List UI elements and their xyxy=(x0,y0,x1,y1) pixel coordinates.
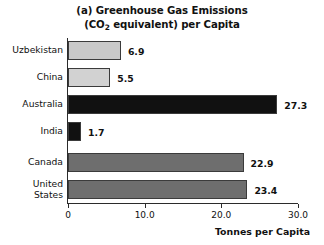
chart-title: (a) Greenhouse Gas Emissions (CO2 equiva… xyxy=(0,4,324,31)
greenhouse-gas-emissions-bar-chart: (a) Greenhouse Gas Emissions (CO2 equiva… xyxy=(0,0,324,245)
x-tick-label: 20.0 xyxy=(211,210,231,220)
bar-value-label: 5.5 xyxy=(117,72,133,83)
bar xyxy=(68,95,277,114)
x-tick-mark xyxy=(221,204,222,208)
bar-value-label: 23.4 xyxy=(254,184,277,195)
chart-title-co2-suffix: equivalent) per Capita xyxy=(110,19,240,30)
bar xyxy=(68,122,81,141)
chart-title-line-2: (CO2 equivalent) per Capita xyxy=(0,18,324,32)
category-axis-labels: UzbekistanChinaAustraliaIndiaCanadaUnite… xyxy=(0,38,63,203)
bar xyxy=(68,41,121,60)
x-axis-line xyxy=(67,203,298,204)
bar-row: 23.4 xyxy=(68,180,298,199)
category-label: Uzbekistan xyxy=(1,45,63,56)
category-label: China xyxy=(1,72,63,83)
bar xyxy=(68,180,247,199)
chart-title-line-1: (a) Greenhouse Gas Emissions xyxy=(0,4,324,18)
category-label: United States xyxy=(1,179,63,200)
x-tick-label: 0 xyxy=(65,210,71,220)
bar xyxy=(68,68,110,87)
category-label: Canada xyxy=(1,157,63,168)
bar-value-label: 6.9 xyxy=(128,45,144,56)
bar-value-label: 27.3 xyxy=(284,99,307,110)
plot-area: 6.95.527.31.722.923.4 010.020.030.0 xyxy=(68,38,298,203)
bar-row: 5.5 xyxy=(68,68,298,87)
chart-title-co2-prefix: (CO xyxy=(84,19,105,30)
x-tick-mark xyxy=(145,204,146,208)
bar-row: 27.3 xyxy=(68,95,298,114)
bar xyxy=(68,153,244,172)
bar-row: 1.7 xyxy=(68,122,298,141)
x-tick-mark xyxy=(298,204,299,208)
x-axis-title: Tonnes per Capita xyxy=(215,226,310,237)
x-tick-label: 30.0 xyxy=(288,210,308,220)
x-tick-label: 10.0 xyxy=(135,210,155,220)
x-tick-mark xyxy=(68,204,69,208)
bar-row: 6.9 xyxy=(68,41,298,60)
bar-value-label: 1.7 xyxy=(88,126,104,137)
bar-row: 22.9 xyxy=(68,153,298,172)
bar-value-label: 22.9 xyxy=(251,157,274,168)
category-label: India xyxy=(1,126,63,137)
category-label: Australia xyxy=(1,99,63,110)
